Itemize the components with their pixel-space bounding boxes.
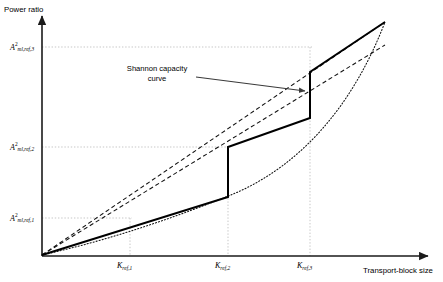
annotation-line-2: curve — [120, 74, 194, 84]
annotation-line-1: Shannon capacity — [120, 64, 194, 74]
x-tick-label-3: Kref,3 — [297, 261, 312, 271]
x-axis-title: Transport-block size — [363, 266, 433, 275]
x-tick-1-sub: ref,1 — [122, 265, 132, 271]
chart-canvas — [0, 0, 443, 282]
x-tick-2-sub: ref,2 — [220, 265, 230, 271]
y-tick-1-sub: ml,ref,1 — [18, 217, 35, 223]
x-tick-label-1: Kref,1 — [117, 261, 132, 271]
figure-container: Power ratio Transport-block size A2ml,re… — [0, 0, 443, 282]
x-tick-3-sub: ref,3 — [302, 265, 312, 271]
y-tick-label-2: A2ml,ref,2 — [10, 141, 34, 152]
y-tick-label-1: A2ml,ref,1 — [10, 212, 34, 223]
y-tick-3-sub: ml,ref,3 — [18, 46, 35, 52]
y-tick-2-sub: ml,ref,2 — [18, 146, 35, 152]
step-allocation-curve — [42, 22, 385, 255]
lower-dashed-line — [42, 45, 385, 255]
annotation-leader-line — [196, 77, 305, 91]
y-tick-label-3: A2ml,ref,3 — [10, 41, 34, 52]
x-tick-label-2: Kref,2 — [215, 261, 230, 271]
y-axis-title: Power ratio — [4, 5, 43, 14]
shannon-capacity-annotation: Shannon capacity curve — [120, 64, 194, 84]
